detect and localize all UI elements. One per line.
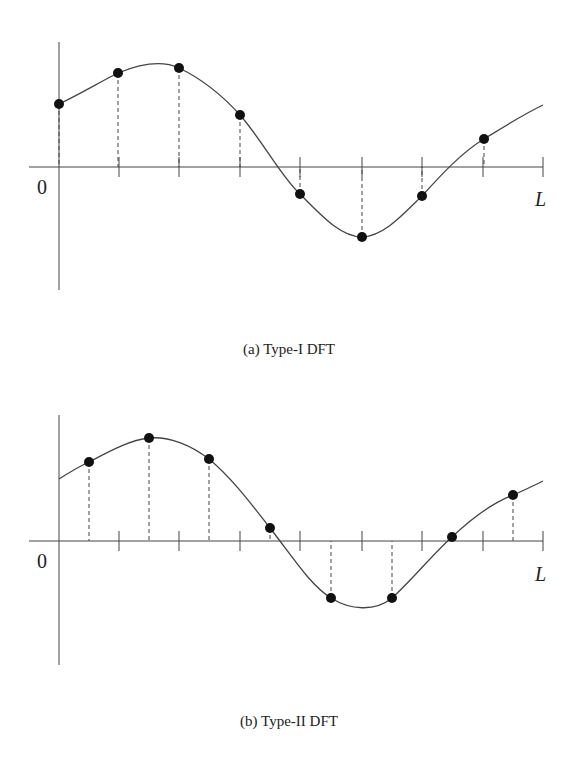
- signal-curve-b: [59, 438, 543, 608]
- sample-point-a: [174, 63, 184, 73]
- end-label-b: L: [535, 563, 546, 586]
- caption-b: (b) Type-II DFT: [0, 713, 578, 730]
- sample-point-b: [387, 593, 397, 603]
- sample-point-a: [295, 189, 305, 199]
- sample-point-a: [54, 99, 64, 109]
- sample-point-b: [84, 457, 94, 467]
- sample-point-b: [447, 532, 457, 542]
- sample-point-b: [144, 433, 154, 443]
- sample-point-b: [326, 593, 336, 603]
- sample-point-a: [235, 110, 245, 120]
- sample-point-b: [204, 454, 214, 464]
- sample-point-b: [265, 523, 275, 533]
- origin-label-b: 0: [37, 550, 47, 573]
- dft-figure: [0, 0, 578, 761]
- sample-point-a: [479, 134, 489, 144]
- origin-label-a: 0: [37, 176, 47, 199]
- sample-point-a: [357, 232, 367, 242]
- end-label-a: L: [535, 188, 546, 211]
- signal-curve-a: [59, 64, 543, 237]
- sample-point-a: [417, 191, 427, 201]
- sample-point-b: [508, 490, 518, 500]
- sample-point-a: [113, 68, 123, 78]
- caption-a: (a) Type-I DFT: [0, 341, 578, 358]
